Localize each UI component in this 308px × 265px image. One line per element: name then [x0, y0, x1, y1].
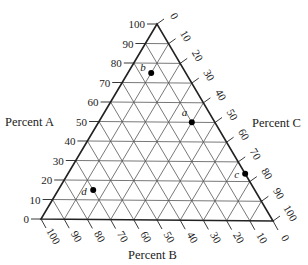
tick-label-c: 90 — [271, 186, 287, 202]
tick-c — [250, 177, 257, 182]
tick-label-c: 30 — [201, 67, 217, 83]
tick-c — [180, 58, 187, 63]
point-label-a: a — [182, 106, 188, 118]
tick-label-b: 50 — [162, 229, 178, 245]
tick-c — [273, 216, 280, 221]
tick-b — [227, 221, 232, 230]
tick-label-a: 0 — [24, 213, 30, 225]
tick-label-a: 10 — [30, 194, 42, 206]
tick-label-c: 0 — [168, 11, 181, 22]
tick-label-a: 90 — [122, 38, 134, 50]
tick-b — [157, 220, 162, 229]
tick-c — [261, 196, 268, 201]
grid-line-c — [111, 83, 192, 220]
tick-label-b: 70 — [115, 229, 131, 245]
tick-label-a: 20 — [41, 174, 53, 186]
tick-label-b: 40 — [185, 229, 201, 245]
tick-c — [192, 78, 199, 83]
tick-label-a: 60 — [88, 96, 100, 108]
tick-label-c: 70 — [248, 146, 264, 162]
tick-label-b: 100 — [44, 226, 63, 247]
tick-b — [250, 221, 255, 230]
grid-line-a — [122, 83, 192, 84]
data-point-b — [148, 70, 154, 76]
data-point-c — [242, 171, 248, 177]
grid-line-b — [122, 83, 203, 221]
tick-label-c: 80 — [259, 166, 275, 182]
grid-line-a — [76, 161, 238, 162]
tick-label-c: 20 — [190, 48, 206, 64]
tick-label-c: 10 — [178, 28, 194, 44]
tick-label-a: 80 — [111, 57, 123, 69]
tick-b — [111, 220, 116, 229]
tick-c — [215, 118, 222, 123]
grid-line-b — [145, 44, 249, 221]
grid-line-b — [99, 122, 157, 221]
tick-label-b: 20 — [231, 230, 247, 246]
tick-b — [64, 219, 69, 228]
tick-label-a: 100 — [129, 18, 146, 30]
tick-label-b: 0 — [279, 233, 292, 244]
axis-title-c: Percent C — [252, 116, 301, 130]
point-label-b: b — [140, 61, 146, 73]
tick-label-c: 40 — [213, 87, 229, 103]
tick-b — [180, 220, 185, 229]
data-point-d — [90, 187, 96, 193]
tick-label-b: 60 — [138, 229, 154, 245]
tick-label-a: 30 — [53, 155, 65, 167]
grid-line-b — [53, 200, 65, 220]
tick-label-b: 10 — [254, 230, 270, 246]
tick-c — [157, 19, 164, 24]
grid-line-c — [203, 162, 238, 221]
tick-label-c: 60 — [236, 126, 252, 142]
tick-label-a: 50 — [76, 116, 88, 128]
grid-line-a — [99, 122, 215, 123]
tick-b — [87, 219, 92, 228]
grid-line-c — [250, 201, 262, 221]
tick-label-b: 90 — [69, 228, 85, 244]
point-label-d: d — [81, 185, 87, 197]
tick-c — [227, 137, 234, 142]
tick-c — [203, 98, 210, 103]
point-label-c: c — [234, 168, 239, 180]
grid-line-c — [157, 123, 215, 221]
axis-title-b: Percent B — [128, 248, 177, 262]
tick-c — [238, 157, 245, 162]
axis-title-a: Percent A — [5, 115, 54, 129]
grid-line-a — [111, 102, 204, 103]
tick-b — [203, 220, 208, 229]
grid-line-c — [64, 44, 168, 220]
tick-label-c: 100 — [281, 203, 300, 224]
tick-label-a: 70 — [99, 77, 111, 89]
tick-label-a: 40 — [64, 135, 76, 147]
tick-label-b: 80 — [92, 229, 108, 245]
tick-b — [273, 221, 278, 230]
tick-b — [134, 220, 139, 229]
tick-c — [169, 39, 176, 44]
tick-b — [41, 219, 46, 228]
ternary-diagram: 0102030405060708090100010203040506070809… — [0, 0, 308, 265]
grid-line-a — [53, 200, 262, 202]
data-point-a — [189, 119, 195, 125]
tick-label-c: 50 — [225, 107, 241, 123]
tick-label-b: 30 — [208, 230, 224, 246]
